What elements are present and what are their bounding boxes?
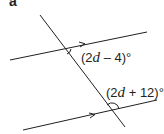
angle-label-top-rest: – 4)° (100, 50, 131, 65)
angle-label-bottom: (2d + 12)° (106, 84, 164, 101)
angle-label-bottom-rest: + 12)° (125, 85, 164, 100)
angle-variable: d (93, 49, 101, 65)
parallel-lines-diagram (0, 0, 164, 134)
angle-label-top-open: (2 (81, 50, 93, 65)
parallel-arrow-icon (79, 42, 85, 47)
angle-label-top: (2d – 4)° (81, 49, 131, 66)
angle-variable: d (118, 84, 126, 100)
lower-parallel-line (23, 100, 157, 130)
angle-label-bottom-open: (2 (106, 85, 118, 100)
